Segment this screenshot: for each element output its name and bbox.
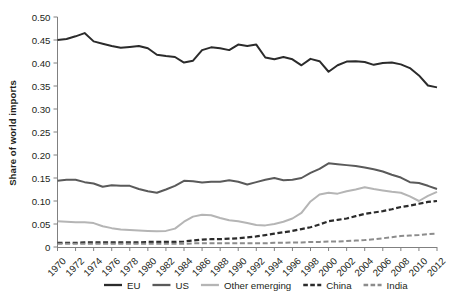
legend-label: India (387, 280, 409, 291)
line-chart: Share of world imports 0.500.450.400.350… (0, 0, 458, 304)
y-tick-label: 0.05 (32, 219, 51, 230)
x-tick-label: 1988 (208, 255, 231, 278)
y-tick-label: 0 (45, 242, 51, 253)
x-tick-label: 2012 (425, 255, 448, 278)
y-tick-label: 0.20 (32, 150, 51, 161)
series-line-eu (58, 33, 438, 87)
x-axis-tick-labels: 1970197219741976197819801982198419861988… (45, 255, 448, 278)
chart-container: Share of world imports 0.500.450.400.350… (0, 0, 458, 304)
x-tick-label: 2000 (316, 255, 339, 278)
series-line-other-emerging (58, 187, 438, 231)
x-tick-label: 1998 (298, 255, 321, 278)
legend-item-eu[interactable]: EU (104, 280, 140, 291)
x-tick-label: 1982 (153, 255, 176, 278)
legend-label: EU (127, 280, 140, 291)
x-tick-label: 1990 (226, 255, 249, 278)
series-line-china (58, 201, 438, 243)
series-line-us (58, 163, 438, 192)
x-tick-label: 1970 (45, 255, 68, 278)
y-tick-label: 0.15 (32, 173, 51, 184)
x-tick-label: 1984 (172, 255, 195, 278)
x-tick-label: 1986 (190, 255, 213, 278)
x-tick-label: 2004 (352, 255, 375, 278)
legend-item-other-emerging[interactable]: Other emerging (201, 280, 291, 291)
chart-legend: EUUSOther emergingChinaIndia (104, 280, 408, 291)
y-tick-label: 0.35 (32, 81, 51, 92)
x-tick-label: 2010 (406, 255, 429, 278)
y-tick-label: 0.25 (32, 127, 51, 138)
legend-label: US (175, 280, 189, 291)
y-axis-label-group: Share of world imports (7, 80, 18, 186)
y-axis-label: Share of world imports (7, 80, 18, 186)
y-axis-tick-labels: 0.500.450.400.350.300.250.200.150.100.05… (32, 12, 51, 253)
x-tick-label: 2006 (370, 255, 393, 278)
x-tick-label: 1976 (99, 255, 122, 278)
legend-item-china[interactable]: China (303, 280, 352, 291)
x-tick-label: 1978 (117, 255, 140, 278)
legend-item-us[interactable]: US (152, 280, 189, 291)
y-tick-label: 0.10 (32, 196, 51, 207)
y-tick-label: 0.30 (32, 104, 51, 115)
x-tick-label: 1996 (280, 255, 303, 278)
x-tick-label: 1992 (244, 255, 267, 278)
x-tick-label: 1972 (63, 255, 86, 278)
legend-label: China (326, 280, 352, 291)
y-tick-label: 0.50 (32, 12, 51, 23)
legend-label: Other emerging (224, 280, 291, 291)
x-tick-label: 2002 (334, 255, 357, 278)
x-tick-label: 1974 (81, 255, 104, 278)
x-tick-label: 1980 (135, 255, 158, 278)
x-tick-label: 2008 (388, 255, 411, 278)
x-tick-label: 1994 (262, 255, 285, 278)
series-lines (58, 33, 438, 244)
y-axis-tick-marks (54, 17, 58, 247)
legend-item-india[interactable]: India (364, 280, 409, 291)
y-tick-label: 0.45 (32, 35, 51, 46)
y-tick-label: 0.40 (32, 58, 51, 69)
